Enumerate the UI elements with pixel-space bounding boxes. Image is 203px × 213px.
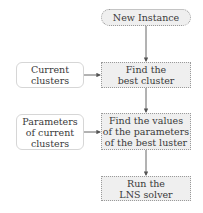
node-label: Run the LNS solver	[119, 178, 172, 200]
node-label: Find the best cluster	[118, 64, 175, 86]
node-label: Current clusters	[31, 64, 69, 86]
node-find-values-parameters: Find the values of the parameters of the…	[101, 113, 191, 150]
node-current-clusters: Current clusters	[16, 62, 84, 88]
node-new-instance: New Instance	[101, 9, 191, 26]
node-find-best-cluster: Find the best cluster	[101, 62, 191, 88]
node-run-lns-solver: Run the LNS solver	[101, 176, 191, 201]
node-parameters-current-clusters: Parameters of current clusters	[16, 114, 84, 150]
node-label: Find the values of the parameters of the…	[103, 115, 189, 148]
node-label: Parameters of current clusters	[22, 116, 77, 149]
node-label: New Instance	[113, 12, 179, 23]
